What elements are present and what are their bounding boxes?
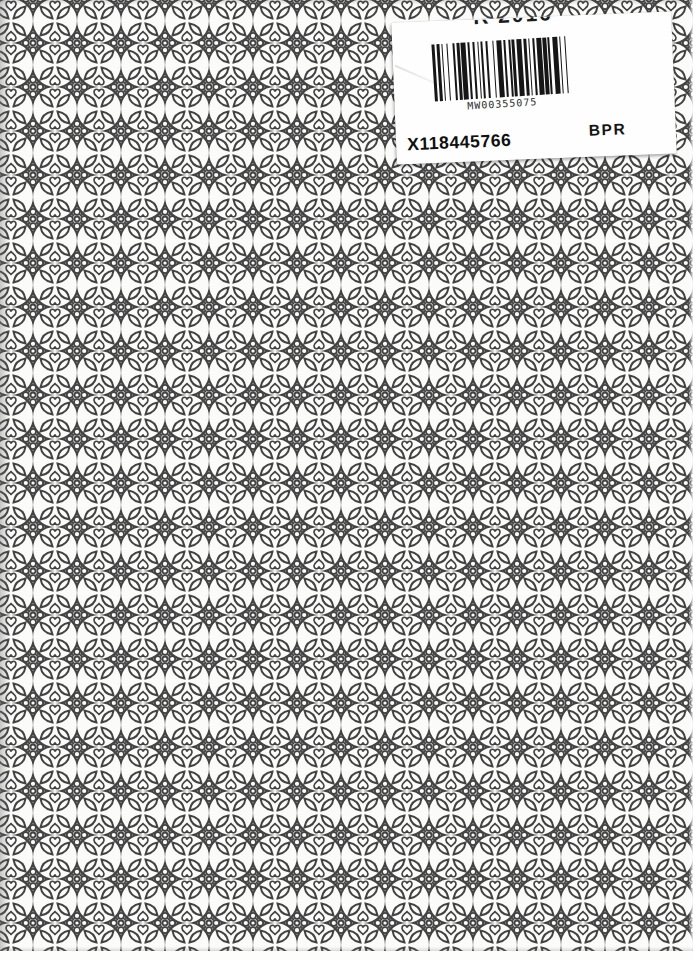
- label-code-left: X118445766: [407, 130, 512, 155]
- scanned-cover-page: R 2016 MW00355075 X118445766 BPR: [0, 0, 693, 960]
- label-code-right: BPR: [588, 120, 626, 139]
- barcode-bars: [431, 36, 568, 101]
- inventory-sticker-label: R 2016 MW00355075 X118445766 BPR: [391, 11, 676, 164]
- scan-edge-bottom: [0, 951, 693, 960]
- barcode: MW00355075: [431, 36, 569, 113]
